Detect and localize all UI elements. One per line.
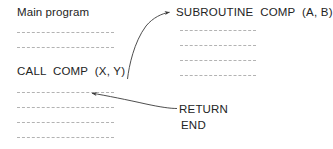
call-arrow	[128, 12, 170, 79]
return-statement: RETURN	[179, 104, 228, 116]
main-program-heading: Main program	[17, 7, 89, 19]
main-code-line	[17, 122, 114, 123]
subroutine-code-line	[180, 60, 256, 61]
subroutine-code-line	[180, 45, 256, 46]
subroutine-code-line	[180, 75, 256, 76]
subroutine-heading: SUBROUTINE COMP (A, B)	[176, 7, 333, 19]
call-statement: CALL COMP (X, Y)	[17, 66, 125, 78]
main-code-line	[17, 47, 114, 48]
main-code-line	[17, 137, 114, 138]
end-statement: END	[181, 120, 206, 132]
main-code-line	[17, 32, 114, 33]
subroutine-code-line	[180, 30, 256, 31]
main-code-line	[17, 107, 114, 108]
main-code-line	[17, 92, 114, 93]
